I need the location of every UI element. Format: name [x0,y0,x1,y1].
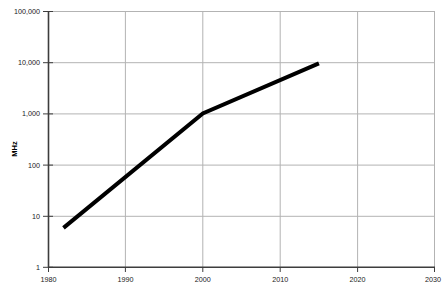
y-tick-label-100000: 100,000 [14,7,40,16]
plot-background [48,11,435,267]
chart-container: 100,000 10,000 1,000 100 10 1 1980 1990 … [0,0,447,297]
y-tick-label-10: 10 [32,212,40,221]
x-tick-label-1990: 1990 [117,275,133,284]
line-chart: 100,000 10,000 1,000 100 10 1 1980 1990 … [0,0,447,297]
x-tick-label-2000: 2000 [195,275,211,284]
y-tick-label-10000: 10,000 [18,58,40,67]
y-tick-label-100: 100 [28,161,40,170]
x-tick-label-1980: 1980 [41,275,57,284]
y-tick-label-1: 1 [36,263,40,272]
y-tick-label-1000: 1,000 [22,109,40,118]
y-axis-title: MHz [10,141,19,157]
x-tick-label-2030: 2030 [425,275,441,284]
y-tick-labels: 100,000 10,000 1,000 100 10 1 [14,7,40,272]
x-tick-label-2010: 2010 [272,275,288,284]
x-tick-label-2020: 2020 [350,275,366,284]
x-tick-labels: 1980 1990 2000 2010 2020 2030 [41,275,442,284]
